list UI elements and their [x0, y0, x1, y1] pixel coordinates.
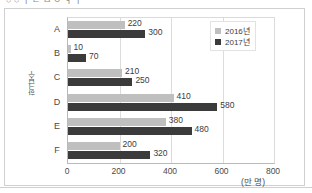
bar-value-label: 480 [195, 125, 209, 133]
legend-item-2017: 2017년 [215, 36, 250, 47]
bar-group: F200320 [68, 139, 274, 163]
bar-value-label: 250 [135, 76, 149, 84]
chart-legend: 2016년 2017년 [210, 21, 256, 51]
x-tick-label: 200 [111, 166, 125, 176]
category-label: D [50, 97, 64, 107]
bar [68, 103, 217, 111]
bar-value-label: 300 [148, 28, 162, 36]
x-tick-label: 400 [163, 166, 177, 176]
bar [68, 127, 192, 135]
x-tick-label: 800 [266, 166, 280, 176]
category-label: C [50, 72, 64, 82]
bar [68, 94, 174, 102]
bar-value-label: 70 [89, 52, 98, 60]
category-label: E [50, 121, 64, 131]
y-axis-title: 학급수 [27, 71, 43, 95]
bar [68, 21, 125, 29]
bar-chart: 학급수 A220300B1070C210250D410580E380480F20… [5, 9, 304, 185]
x-tick-label: 0 [65, 166, 70, 176]
bar [68, 45, 71, 53]
x-tick-label: 600 [214, 166, 228, 176]
bar-value-label: 380 [169, 116, 183, 124]
bar [68, 78, 132, 86]
bar-value-label: 320 [153, 149, 167, 157]
legend-swatch-icon-2017 [215, 39, 221, 45]
x-axis-unit-label: (만 명) [241, 175, 265, 187]
bar-value-label: 210 [125, 67, 139, 75]
bar [68, 151, 150, 159]
bar [68, 118, 166, 126]
legend-swatch-icon-2016 [215, 28, 221, 34]
bar [68, 69, 122, 77]
bar [68, 30, 145, 38]
category-label: B [50, 48, 64, 58]
bar-value-label: 410 [177, 92, 191, 100]
category-label: A [50, 24, 64, 34]
clipped-header-text: ○ ○ ㅣ ㄹ ㅁ ㅇ ㅕ ㅣ [6, 0, 156, 6]
bar-value-label: 580 [220, 101, 234, 109]
chart-figure-card: 학급수 A220300B1070C210250D410580E380480F20… [4, 8, 305, 186]
category-label: F [50, 145, 64, 155]
legend-label-2017: 2017년 [225, 36, 250, 47]
bar [68, 54, 86, 62]
legend-label-2016: 2016년 [225, 25, 250, 36]
bar-group: D410580 [68, 91, 274, 115]
bar-value-label: 10 [74, 43, 83, 51]
bar-group: C210250 [68, 66, 274, 90]
bar [68, 142, 120, 150]
legend-item-2016: 2016년 [215, 25, 250, 36]
gridline-800 [274, 18, 275, 163]
bar-value-label: 220 [128, 19, 142, 27]
bottom-divider [0, 187, 312, 188]
bar-value-label: 200 [123, 140, 137, 148]
bar-group: E380480 [68, 115, 274, 139]
